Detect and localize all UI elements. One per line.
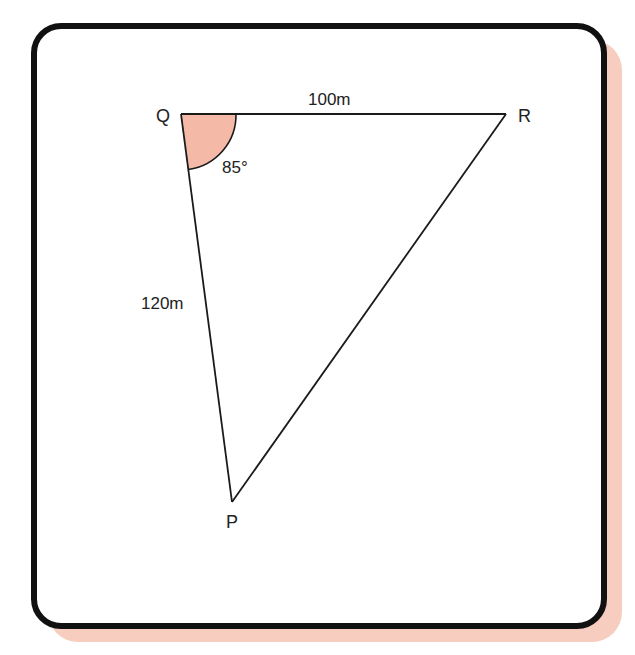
angle-q-label: 85°: [222, 158, 248, 177]
side-qr-label: 100m: [308, 90, 351, 109]
side-qp-label: 120m: [141, 294, 184, 313]
side-rp: [232, 114, 506, 502]
vertex-r-label: R: [518, 106, 531, 126]
vertex-p-label: P: [226, 512, 238, 532]
vertex-q-label: Q: [156, 106, 170, 126]
triangle-diagram: Q R P 100m 120m 85°: [0, 0, 635, 655]
